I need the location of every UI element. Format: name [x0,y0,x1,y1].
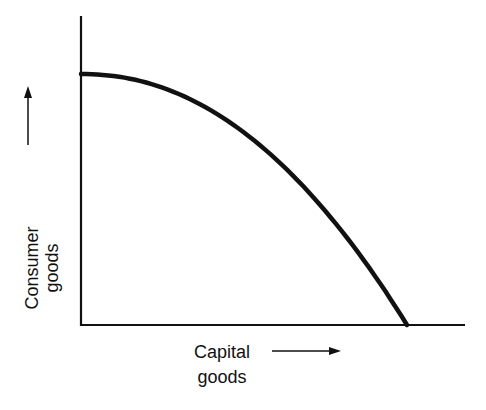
y-arrow-icon [24,86,32,145]
production-possibility-curve [81,74,407,325]
y-axis-label: Consumer goods [22,226,62,309]
x-label-line2: goods [197,367,246,387]
y-label-line2: goods [42,243,62,292]
ppf-diagram: Consumer goods Capital goods [0,0,486,410]
x-arrow-icon [272,347,341,355]
y-label-line1: Consumer [22,226,42,309]
x-label-line1: Capital [194,342,250,362]
